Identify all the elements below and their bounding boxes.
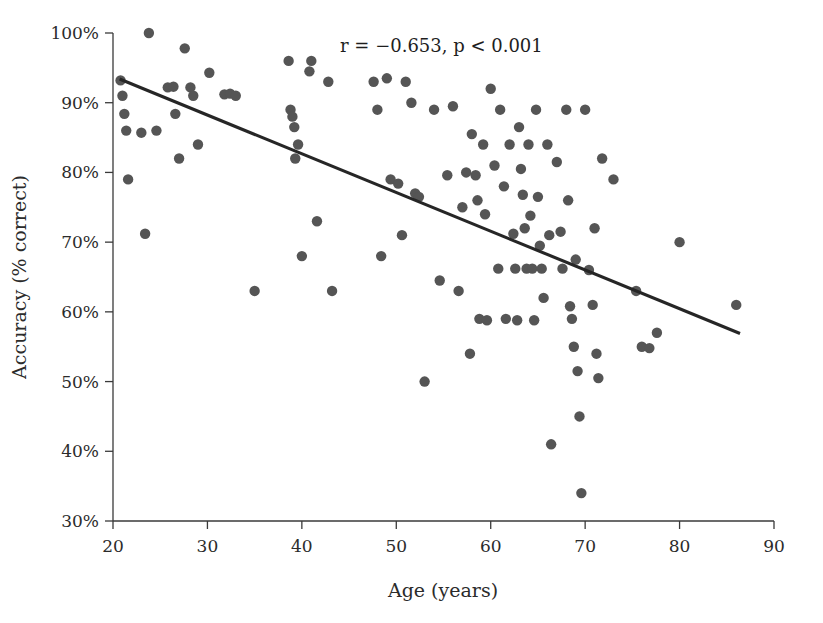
data-point — [674, 237, 684, 247]
y-tick-label: 80% — [61, 162, 99, 182]
data-point — [382, 73, 392, 83]
data-point — [435, 275, 445, 285]
data-point — [478, 139, 488, 149]
x-tick-label: 50 — [385, 536, 407, 556]
data-point — [525, 210, 535, 220]
x-axis-ticks: 2030405060708090 — [102, 521, 785, 556]
data-point — [151, 125, 161, 135]
data-point — [512, 315, 522, 325]
data-point — [397, 230, 407, 240]
data-point — [448, 101, 458, 111]
data-point — [174, 153, 184, 163]
regression-trend-line — [120, 79, 740, 333]
data-point — [580, 104, 590, 114]
data-point — [461, 167, 471, 177]
data-point — [170, 109, 180, 119]
data-point — [457, 202, 467, 212]
data-point — [140, 229, 150, 239]
data-point — [312, 216, 322, 226]
data-point — [144, 28, 154, 38]
y-axis-ticks: 30%40%50%60%70%80%90%100% — [50, 23, 113, 531]
data-point — [327, 286, 337, 296]
data-point — [587, 300, 597, 310]
x-tick-label: 30 — [197, 536, 219, 556]
y-axis-title: Accuracy (% correct) — [8, 175, 30, 380]
data-point — [552, 157, 562, 167]
data-point — [168, 81, 178, 91]
data-point — [323, 77, 333, 87]
data-point — [117, 91, 127, 101]
data-point — [480, 209, 490, 219]
data-point — [119, 109, 129, 119]
data-point — [563, 195, 573, 205]
data-point — [591, 348, 601, 358]
data-point — [538, 293, 548, 303]
y-tick-label: 100% — [50, 23, 99, 43]
data-point — [304, 66, 314, 76]
data-point — [467, 129, 477, 139]
data-points-group — [115, 28, 741, 499]
data-point — [533, 192, 543, 202]
data-point — [495, 104, 505, 114]
x-tick-label: 70 — [574, 536, 596, 556]
data-point — [493, 263, 503, 273]
data-point — [188, 91, 198, 101]
x-axis-title: Age (years) — [387, 579, 498, 601]
data-point — [565, 301, 575, 311]
data-point — [419, 376, 429, 386]
data-point — [499, 181, 509, 191]
data-point — [465, 348, 475, 358]
data-point — [193, 139, 203, 149]
data-point — [546, 439, 556, 449]
data-point — [567, 314, 577, 324]
data-point — [523, 139, 533, 149]
data-point — [557, 263, 567, 273]
x-tick-label: 90 — [763, 536, 785, 556]
data-point — [406, 98, 416, 108]
data-point — [442, 170, 452, 180]
data-point — [123, 174, 133, 184]
data-point — [393, 178, 403, 188]
correlation-annotation: r = −0.653, p < 0.001 — [340, 35, 543, 56]
data-point — [529, 315, 539, 325]
data-point — [576, 488, 586, 498]
plot-canvas: 30%40%50%60%70%80%90%100% 20304050607080… — [0, 0, 823, 623]
data-point — [555, 226, 565, 236]
y-tick-label: 40% — [61, 441, 99, 461]
data-point — [472, 195, 482, 205]
data-point — [574, 411, 584, 421]
data-point — [514, 122, 524, 132]
data-point — [510, 263, 520, 273]
data-point — [290, 153, 300, 163]
data-point — [482, 315, 492, 325]
x-tick-label: 60 — [480, 536, 502, 556]
data-point — [589, 223, 599, 233]
data-point — [544, 230, 554, 240]
data-point — [489, 160, 499, 170]
data-point — [569, 342, 579, 352]
data-point — [136, 127, 146, 137]
y-tick-label: 50% — [61, 372, 99, 392]
data-point — [180, 43, 190, 53]
data-point — [486, 84, 496, 94]
data-point — [516, 164, 526, 174]
data-point — [597, 153, 607, 163]
data-point — [527, 263, 537, 273]
data-point — [531, 104, 541, 114]
data-point — [289, 122, 299, 132]
data-point — [372, 104, 382, 114]
data-point — [121, 125, 131, 135]
data-point — [453, 286, 463, 296]
x-tick-label: 20 — [102, 536, 124, 556]
data-point — [376, 251, 386, 261]
data-point — [731, 300, 741, 310]
data-point — [470, 170, 480, 180]
data-point — [501, 314, 511, 324]
data-point — [287, 111, 297, 121]
data-point — [297, 251, 307, 261]
y-tick-label: 60% — [61, 302, 99, 322]
data-point — [204, 68, 214, 78]
data-point — [561, 104, 571, 114]
x-tick-label: 80 — [669, 536, 691, 556]
data-point — [518, 190, 528, 200]
